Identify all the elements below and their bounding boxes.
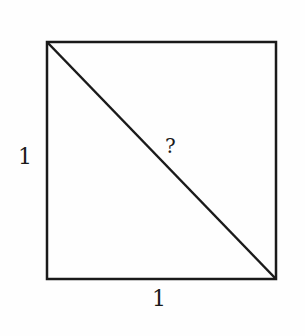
bottom-side-label: 1 <box>152 288 166 310</box>
diagram-canvas: 1 1 ? <box>0 0 305 336</box>
left-side-label: 1 <box>18 146 32 168</box>
diagonal <box>47 42 276 279</box>
diagonal-label: ? <box>165 136 176 156</box>
